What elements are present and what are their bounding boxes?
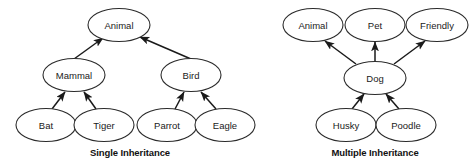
inheritance-diagram-figure: AnimalMammalBirdBatTigerParrotEagleAnima…: [0, 0, 473, 167]
caption-single-inheritance: Single Inheritance: [90, 147, 170, 158]
node-bat[interactable]: Bat: [16, 109, 76, 142]
node-label-bat: Bat: [39, 120, 54, 131]
node-label-friendly: Friendly: [420, 20, 454, 31]
node-label-tiger: Tiger: [93, 120, 114, 131]
node-parrot[interactable]: Parrot: [137, 109, 197, 142]
node-label-eagle: Eagle: [213, 120, 237, 131]
node-label-dog: Dog: [366, 73, 383, 84]
node-mammal[interactable]: Mammal: [43, 59, 105, 92]
edge-eagle-bird: [201, 92, 216, 109]
node-label-pet: Pet: [368, 20, 383, 31]
edge-bird-animal: [140, 37, 191, 59]
nodes-layer: AnimalMammalBirdBatTigerParrotEagleAnima…: [16, 9, 468, 142]
node-husky[interactable]: Husky: [316, 109, 376, 142]
edge-dog-animal: [325, 41, 356, 64]
node-label-husky: Husky: [333, 120, 360, 131]
edge-bat-mammal: [52, 92, 65, 109]
node-bird[interactable]: Bird: [161, 59, 221, 92]
edge-mammal-animal: [74, 38, 103, 59]
node-animal2[interactable]: Animal: [283, 9, 343, 42]
caption-multiple-inheritance: Multiple Inheritance: [331, 147, 418, 158]
node-tiger[interactable]: Tiger: [74, 109, 134, 142]
edge-poodle-dog: [386, 94, 399, 109]
node-eagle[interactable]: Eagle: [195, 109, 255, 142]
node-friendly[interactable]: Friendly: [406, 9, 468, 42]
node-dog[interactable]: Dog: [344, 62, 406, 95]
edge-husky-dog: [352, 94, 364, 109]
node-label-poodle: Poodle: [391, 120, 421, 131]
edge-dog-friendly: [394, 41, 425, 64]
node-poodle[interactable]: Poodle: [376, 109, 436, 142]
node-pet[interactable]: Pet: [345, 9, 405, 42]
node-label-parrot: Parrot: [154, 120, 180, 131]
node-label-animal2: Animal: [298, 20, 327, 31]
node-label-bird: Bird: [183, 70, 200, 81]
edge-parrot-bird: [175, 92, 184, 109]
node-animal[interactable]: Animal: [88, 9, 150, 42]
edge-tiger-mammal: [84, 92, 96, 109]
node-label-animal: Animal: [104, 20, 133, 31]
node-label-mammal: Mammal: [56, 70, 92, 81]
diagram-canvas: AnimalMammalBirdBatTigerParrotEagleAnima…: [0, 0, 473, 167]
captions-layer: Single InheritanceMultiple Inheritance: [90, 147, 419, 158]
